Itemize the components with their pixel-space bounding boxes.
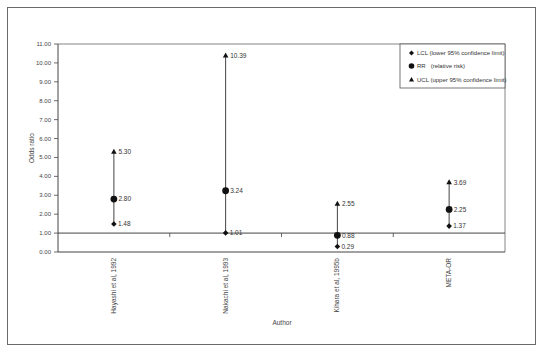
y-tick-label: 2.00 <box>39 211 51 217</box>
y-tick-label: 8.00 <box>39 98 51 104</box>
lcl-label: 1.37 <box>453 222 466 229</box>
rr-marker <box>446 206 453 213</box>
rr-marker <box>110 196 117 203</box>
legend-label: RR (relative risk) <box>417 63 465 69</box>
y-axis-title: Odds ratio <box>28 133 35 163</box>
legend-label: LCL (lower 95% confidence limit) <box>417 50 504 56</box>
interval-group: 1.372.253.69 <box>446 179 467 230</box>
ucl-marker <box>335 201 341 206</box>
rr-label: 2.80 <box>118 195 131 202</box>
y-axis: 0.001.002.003.004.005.006.007.008.009.00… <box>36 41 58 255</box>
ucl-marker <box>111 149 117 154</box>
y-tick-label: 6.00 <box>39 136 51 142</box>
lcl-marker <box>335 244 341 250</box>
y-tick-label: 9.00 <box>39 79 51 85</box>
lcl-marker <box>446 223 452 229</box>
legend-label: UCL (upper 95% confidence limit) <box>417 77 506 83</box>
rr-label: 3.24 <box>230 187 243 194</box>
lcl-label: 1.01 <box>230 229 243 236</box>
lcl-marker <box>111 221 117 227</box>
legend-item-ucl: UCL (upper 95% confidence limit) <box>409 77 506 83</box>
legend-item-lcl: LCL (lower 95% confidence limit) <box>409 50 504 56</box>
ucl-marker <box>446 179 452 184</box>
y-tick-label: 3.00 <box>39 192 51 198</box>
ucl-marker <box>223 53 229 58</box>
y-tick-label: 4.00 <box>39 173 51 179</box>
interval-group: 0.290.882.55 <box>334 200 355 250</box>
category-label: Nakachi et al, 1993 <box>222 258 229 314</box>
legend-item-rr: RR (relative risk) <box>409 63 465 69</box>
interval-group: 1.482.805.30 <box>110 148 131 227</box>
category-label: Hayashi et al, 1992 <box>110 258 118 314</box>
ucl-label: 5.30 <box>118 148 131 155</box>
circle-icon <box>409 63 415 69</box>
category-label: Kihara et al, 1995b <box>333 258 340 313</box>
rr-marker <box>334 232 341 239</box>
ucl-label: 10.39 <box>230 52 247 59</box>
rr-label: 2.25 <box>454 206 467 213</box>
ucl-label: 2.55 <box>342 200 355 207</box>
interval-chart: 0.001.002.003.004.005.006.007.008.009.00… <box>0 0 541 352</box>
y-tick-label: 10.00 <box>36 60 52 66</box>
y-tick-label: 5.00 <box>39 154 51 160</box>
x-axis-title: Author <box>272 319 292 326</box>
x-axis-categories: Hayashi et al, 1992Nakachi et al, 1993Ki… <box>110 258 452 314</box>
rr-marker <box>222 187 229 194</box>
lcl-marker <box>223 230 229 236</box>
y-tick-label: 1.00 <box>39 230 51 236</box>
category-label: META-OR <box>445 258 452 288</box>
legend: LCL (lower 95% confidence limit) RR (rel… <box>400 44 506 88</box>
y-tick-label: 0.00 <box>39 249 51 255</box>
rr-label: 0.88 <box>342 232 355 239</box>
y-tick-label: 11.00 <box>36 41 51 47</box>
lcl-label: 1.48 <box>118 220 131 227</box>
ucl-label: 3.69 <box>454 179 467 186</box>
interval-group: 1.013.2410.39 <box>222 52 247 236</box>
y-tick-label: 7.00 <box>39 117 51 123</box>
lcl-label: 0.29 <box>341 243 354 250</box>
